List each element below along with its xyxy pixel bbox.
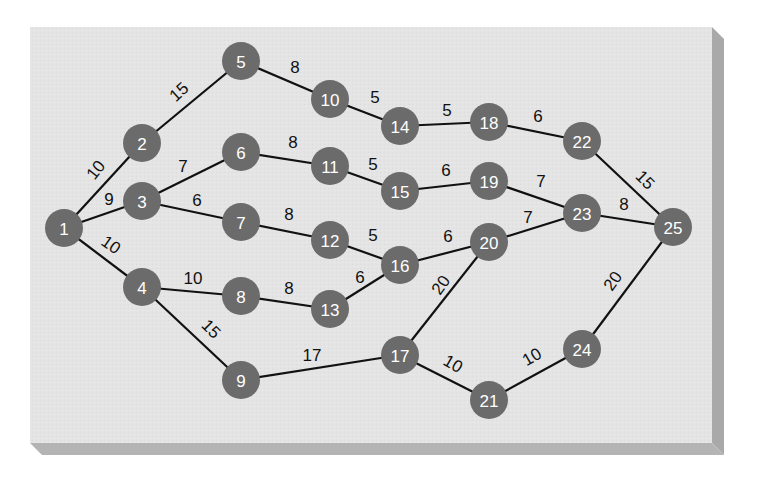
- node-label: 13: [321, 301, 340, 320]
- node-label: 16: [391, 257, 410, 276]
- node-11: 11: [311, 147, 349, 185]
- node-8: 8: [222, 277, 260, 315]
- node-13: 13: [311, 290, 349, 328]
- node-label: 10: [321, 91, 340, 110]
- node-19: 19: [470, 162, 508, 200]
- node-22: 22: [563, 122, 601, 160]
- node-label: 9: [236, 372, 245, 391]
- node-label: 18: [480, 114, 499, 133]
- node-label: 21: [480, 392, 499, 411]
- node-label: 3: [137, 193, 146, 212]
- edge-weight-3-7: 6: [192, 191, 201, 210]
- edge-weight-6-11: 8: [288, 133, 297, 152]
- node-label: 24: [573, 341, 592, 360]
- edge-weight-14-18: 5: [442, 101, 451, 120]
- node-label: 22: [573, 133, 592, 152]
- node-9: 9: [222, 361, 260, 399]
- node-3: 3: [123, 182, 161, 220]
- edge-weight-8-13: 8: [284, 279, 293, 298]
- edge-weight-11-15: 5: [368, 155, 377, 174]
- panel-bevel-bottom: [30, 443, 724, 455]
- diagram-canvas: 1091015761015888817555656620106771015820…: [0, 0, 757, 477]
- node-18: 18: [470, 103, 508, 141]
- node-label: 17: [391, 347, 410, 366]
- node-10: 10: [311, 80, 349, 118]
- edge-weight-3-6: 7: [178, 157, 187, 176]
- node-label: 7: [236, 214, 245, 233]
- node-label: 14: [391, 118, 410, 137]
- node-15: 15: [381, 172, 419, 210]
- node-12: 12: [311, 221, 349, 259]
- node-label: 4: [137, 279, 146, 298]
- node-24: 24: [563, 330, 601, 368]
- node-label: 8: [236, 288, 245, 307]
- edge-weight-4-8: 10: [184, 269, 203, 288]
- node-14: 14: [381, 107, 419, 145]
- edge-weight-12-16: 5: [368, 226, 377, 245]
- node-25: 25: [654, 208, 692, 246]
- node-7: 7: [222, 203, 260, 241]
- edge-weight-20-23: 7: [523, 208, 532, 227]
- network-diagram: 1091015761015888817555656620106771015820…: [0, 0, 757, 477]
- node-label: 19: [480, 173, 499, 192]
- node-23: 23: [563, 194, 601, 232]
- node-label: 12: [321, 232, 340, 251]
- edge-weight-16-20: 6: [443, 227, 452, 246]
- edge-weight-18-22: 6: [533, 107, 542, 126]
- node-2: 2: [123, 124, 161, 162]
- node-label: 5: [236, 53, 245, 72]
- node-label: 25: [664, 219, 683, 238]
- node-6: 6: [222, 133, 260, 171]
- edge-weight-9-17: 17: [303, 346, 322, 365]
- node-label: 2: [137, 135, 146, 154]
- panel-bevel-right: [712, 27, 724, 455]
- edge-weight-1-3: 9: [104, 190, 113, 209]
- node-4: 4: [123, 268, 161, 306]
- node-label: 23: [573, 205, 592, 224]
- node-label: 1: [59, 220, 68, 239]
- node-17: 17: [381, 336, 419, 374]
- edge-weight-10-14: 5: [370, 88, 379, 107]
- edge-weight-15-19: 6: [441, 161, 450, 180]
- edge-weight-7-12: 8: [284, 205, 293, 224]
- node-label: 6: [236, 144, 245, 163]
- edge-weight-5-10: 8: [290, 58, 299, 77]
- edge-weight-13-16: 6: [355, 268, 364, 287]
- node-20: 20: [470, 223, 508, 261]
- edge-weight-23-25: 8: [619, 195, 628, 214]
- node-21: 21: [470, 381, 508, 419]
- node-label: 15: [391, 183, 410, 202]
- node-5: 5: [222, 42, 260, 80]
- edge-weight-19-23: 7: [536, 172, 545, 191]
- node-label: 11: [321, 158, 339, 177]
- node-label: 20: [480, 234, 499, 253]
- node-16: 16: [381, 246, 419, 284]
- node-1: 1: [45, 209, 83, 247]
